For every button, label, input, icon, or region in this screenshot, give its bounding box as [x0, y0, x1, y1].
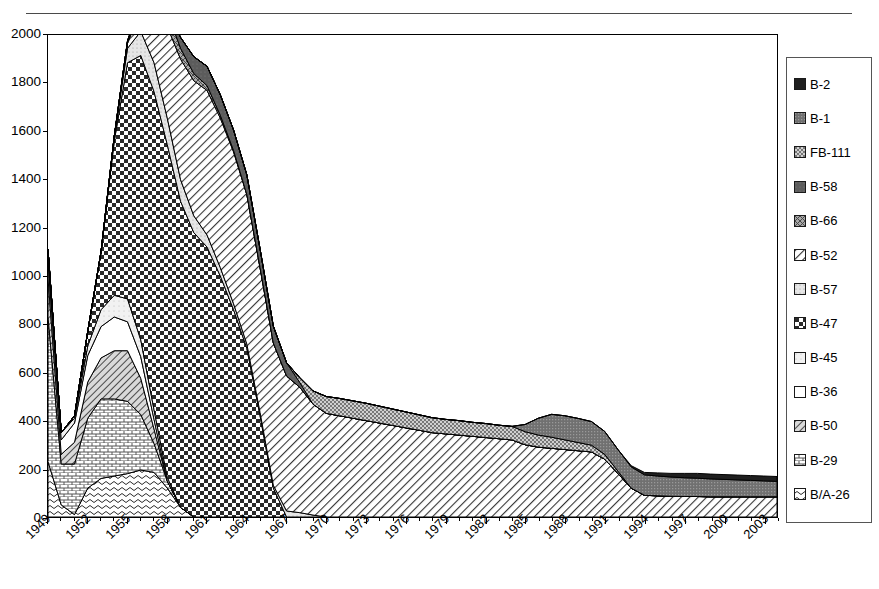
- legend-label: B-2: [810, 78, 830, 91]
- legend-swatch-icon: [794, 283, 806, 295]
- legend-item[interactable]: B/A-26: [794, 477, 871, 511]
- x-axis-tick-mark: [459, 518, 460, 521]
- y-axis-tick-mark: [43, 276, 47, 277]
- legend-item[interactable]: B-29: [794, 443, 871, 477]
- x-axis-tick-mark: [100, 518, 101, 521]
- y-axis-tick-label: 600: [1, 366, 41, 380]
- legend-item[interactable]: B-57: [794, 272, 871, 306]
- legend-item[interactable]: B-47: [794, 306, 871, 340]
- x-axis-tick-mark: [339, 518, 340, 521]
- legend-label: B-58: [810, 180, 837, 193]
- x-axis-tick-mark: [579, 518, 580, 521]
- x-axis-tick-mark: [619, 518, 620, 521]
- legend-label: B-66: [810, 214, 837, 227]
- legend-item[interactable]: B-52: [794, 238, 871, 272]
- x-axis-tick-mark: [260, 518, 261, 521]
- legend-swatch-icon: [794, 386, 806, 398]
- legend-swatch-icon: [794, 420, 806, 432]
- legend-swatch-icon: [794, 249, 806, 261]
- y-axis-tick-mark: [43, 34, 47, 35]
- legend-label: FB-111: [810, 146, 851, 159]
- x-axis-tick-mark: [379, 518, 380, 521]
- plot-area: [47, 34, 778, 518]
- y-axis-tick-label: 200: [1, 463, 41, 477]
- legend-item[interactable]: B-1: [794, 101, 871, 135]
- legend-item[interactable]: B-45: [794, 341, 871, 375]
- legend-item[interactable]: B-2: [794, 67, 871, 101]
- legend-swatch-icon: [794, 317, 806, 329]
- y-axis-tick-mark: [43, 179, 47, 180]
- y-axis-tick-mark: [43, 373, 47, 374]
- legend-label: B-36: [810, 385, 837, 398]
- x-axis-tick-mark: [300, 518, 301, 521]
- y-axis-tick-mark: [43, 82, 47, 83]
- legend-swatch-icon: [794, 454, 806, 466]
- stacked-area-chart: [48, 35, 777, 517]
- legend-item[interactable]: B-36: [794, 375, 871, 409]
- y-axis-tick-label: 1800: [1, 75, 41, 89]
- legend-label: B-45: [810, 351, 837, 364]
- legend-swatch-icon: [794, 112, 806, 124]
- x-axis-tick-mark: [419, 518, 420, 521]
- chart-page: B-2B-1FB-111B-58B-66B-52B-57B-47B-45B-36…: [0, 0, 879, 589]
- legend-item[interactable]: B-66: [794, 204, 871, 238]
- x-axis-tick-mark: [658, 518, 659, 521]
- header-rule: [26, 13, 852, 14]
- y-axis-tick-mark: [43, 470, 47, 471]
- x-axis-tick-mark: [738, 518, 739, 521]
- y-axis-tick-mark: [43, 421, 47, 422]
- legend-swatch-icon: [794, 78, 806, 90]
- legend-swatch-icon: [794, 181, 806, 193]
- chart-legend: B-2B-1FB-111B-58B-66B-52B-57B-47B-45B-36…: [786, 57, 872, 523]
- x-axis-tick-mark: [180, 518, 181, 521]
- x-axis-tick-mark: [220, 518, 221, 521]
- legend-swatch-icon: [794, 146, 806, 158]
- y-axis-tick-mark: [43, 228, 47, 229]
- legend-label: B/A-26: [810, 488, 850, 501]
- x-axis-tick-mark: [140, 518, 141, 521]
- legend-label: B-1: [810, 112, 830, 125]
- y-axis-tick-label: 400: [1, 414, 41, 428]
- x-axis-tick-mark: [539, 518, 540, 521]
- legend-item[interactable]: FB-111: [794, 135, 871, 169]
- legend-label: B-47: [810, 317, 837, 330]
- legend-swatch-icon: [794, 215, 806, 227]
- y-axis-tick-mark: [43, 324, 47, 325]
- y-axis-tick-label: 800: [1, 317, 41, 331]
- legend-swatch-icon: [794, 488, 806, 500]
- legend-label: B-57: [810, 283, 837, 296]
- legend-swatch-icon: [794, 352, 806, 364]
- y-axis-tick-mark: [43, 131, 47, 132]
- y-axis-tick-label: 2000: [1, 27, 41, 41]
- x-axis-tick-mark: [499, 518, 500, 521]
- y-axis-tick-label: 1600: [1, 124, 41, 138]
- legend-label: B-50: [810, 419, 837, 432]
- legend-label: B-29: [810, 454, 837, 467]
- y-axis-tick-label: 1200: [1, 221, 41, 235]
- x-axis-tick-mark: [698, 518, 699, 521]
- x-axis-tick-mark: [60, 518, 61, 521]
- y-axis-tick-label: 1000: [1, 269, 41, 283]
- legend-item[interactable]: B-58: [794, 170, 871, 204]
- legend-label: B-52: [810, 249, 837, 262]
- legend-item[interactable]: B-50: [794, 409, 871, 443]
- y-axis-tick-label: 1400: [1, 172, 41, 186]
- x-axis-tick-mark: [778, 518, 779, 521]
